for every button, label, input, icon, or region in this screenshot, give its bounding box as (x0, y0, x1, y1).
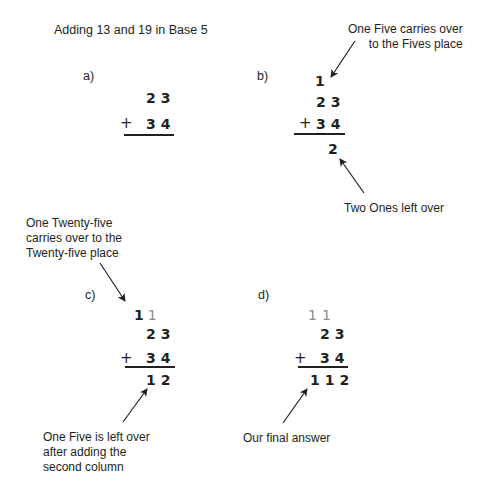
panel-c-result-note-line: One Five is left over (43, 430, 150, 445)
panel-d-carry-digits: 11 (308, 308, 336, 322)
panel-c-result: 12 (146, 373, 175, 387)
panel-a-addend-bottom: 34 (146, 117, 175, 131)
panel-b-sum-line (294, 133, 345, 135)
panel-c-result-note: One Five is left over after adding the s… (43, 430, 150, 475)
arrow-c-carry-icon (100, 263, 125, 301)
panel-d-result-note: Our final answer (243, 431, 330, 446)
arrow-d-result-icon (283, 389, 307, 423)
panel-b-addend-top: 23 (316, 95, 345, 109)
panel-c-carry-digit-dark: 1 (134, 307, 144, 323)
panel-b-carry-digit: 1 (315, 74, 330, 88)
panel-d-addend-top: 23 (320, 327, 349, 341)
panel-d-addend-bottom: 34 (320, 351, 349, 365)
panel-c-result-note-line: second column (43, 460, 150, 475)
panel-c-carry-digits: 11 (134, 308, 157, 322)
panel-b-carry-note: One Five carries over to the Fives place (348, 22, 463, 52)
panel-d-label: d) (258, 288, 269, 302)
panel-c-carry-digit-gray: 1 (148, 307, 157, 323)
panel-a-sum-line (124, 134, 174, 136)
panel-c-label: c) (85, 288, 95, 302)
panel-c-carry-note-line: One Twenty-five (26, 216, 122, 231)
panel-b-carry-note-line: to the Fives place (348, 37, 463, 52)
panel-a-addend-top: 23 (146, 91, 175, 105)
panel-b-result: 2 (328, 142, 343, 156)
panel-c-carry-note: One Twenty-five carries over to the Twen… (26, 216, 122, 261)
panel-d-plus-sign: + (294, 351, 307, 365)
diagram-title: Adding 13 and 19 in Base 5 (54, 23, 208, 37)
panel-b-carry-note-line: One Five carries over (348, 22, 463, 37)
panel-a-plus-sign: + (120, 116, 133, 130)
panel-b-addend-bottom: 34 (316, 117, 345, 131)
panel-c-addend-bottom: 34 (146, 351, 175, 365)
panel-c-addend-top: 23 (146, 327, 175, 341)
panel-b-label: b) (257, 69, 268, 83)
panel-d-sum-line (298, 366, 348, 368)
panel-c-carry-note-line: Twenty-five place (26, 246, 122, 261)
arrow-b-result-icon (340, 159, 364, 193)
panel-b-plus-sign: + (299, 116, 312, 130)
arrow-c-result-icon (123, 389, 147, 422)
panel-d-result: 112 (310, 373, 354, 387)
panel-c-plus-sign: + (120, 351, 133, 365)
panel-c-carry-note-line: carries over to the (26, 231, 122, 246)
panel-c-sum-line (125, 366, 175, 368)
panel-b-result-note: Two Ones left over (344, 201, 444, 216)
panel-c-result-note-line: after adding the (43, 445, 150, 460)
panel-a-label: a) (83, 69, 94, 83)
